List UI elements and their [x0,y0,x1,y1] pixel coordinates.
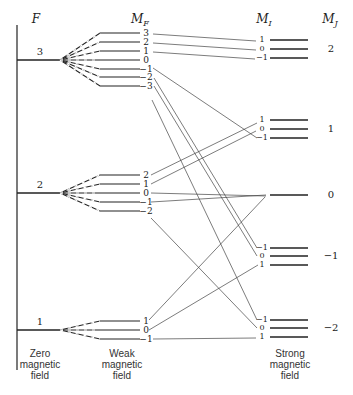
caption-line: field [87,370,157,381]
caption-line: field [255,370,325,381]
correlation-line [151,131,256,184]
weak-field-level [60,60,140,86]
MF-label: −3 [139,81,153,91]
caption-line: Strong [255,348,325,359]
F-label: 3 [37,46,43,57]
MF-label: −1 [139,334,152,344]
MI-label: 0 [259,124,264,133]
weak-field-level [60,330,140,339]
correlation-lines [149,34,266,339]
caption-line: magnetic [5,359,75,370]
MJ-label: −2 [324,322,339,333]
correlation-line [153,68,257,138]
MI-label: −1 [256,53,268,62]
caption-weak-field: Weak magnetic field [87,348,157,381]
correlation-line [153,338,256,339]
MI-label: 0 [259,44,264,53]
correlation-line [153,52,255,59]
header-MF: MF [130,12,149,28]
caption-line: magnetic [87,359,157,370]
MJ-label: 2 [328,43,334,54]
correlation-line [153,43,256,50]
MI-label: −1 [256,133,268,142]
MJ-label: 0 [328,189,334,200]
weak-field-level [60,33,140,60]
MI-label: 0 [259,323,264,332]
weak-field-level [60,321,140,330]
zero-field-levels: 321 [17,46,60,331]
MJ-label: 1 [328,123,334,134]
caption-line: field [5,370,75,381]
header-MI: MI [255,12,272,28]
caption-line: Zero [5,348,75,359]
hyperfine-zeeman-diagram: F MF MI MJ 321 3210−1−2−3210−1−210−1 10−… [0,0,353,395]
MI-label: 1 [259,260,264,269]
F-label: 2 [37,179,43,190]
correlation-line [153,34,256,41]
column-headers: F MF MI MJ [31,12,339,28]
MI-label: 0 [259,251,264,260]
weak-field-level [60,193,140,202]
header-MJ: MJ [321,12,338,28]
caption-line: Weak [87,348,157,359]
MI-label: 1 [259,332,264,341]
MI-label: 1 [259,115,264,124]
caption-line: magnetic [255,359,325,370]
strong-field-levels: 10−1210−110−101−1−101−2 [256,35,338,341]
MJ-label: −1 [324,250,339,261]
MI-label: 1 [259,35,264,44]
correlation-line [151,218,257,328]
header-F: F [31,12,41,26]
correlation-line [152,100,257,320]
F-label: 1 [37,316,43,327]
weak-field-level [60,184,140,193]
caption-strong-field: Strong magnetic field [255,348,325,381]
correlation-line [154,86,257,256]
correlation-line [151,193,266,196]
caption-zero-field: Zero magnetic field [5,348,75,381]
correlation-line [151,195,266,202]
MF-label: −2 [139,206,152,216]
weak-field-levels: 3210−1−2−3210−1−210−1 [60,28,153,344]
correlation-line [149,265,258,330]
